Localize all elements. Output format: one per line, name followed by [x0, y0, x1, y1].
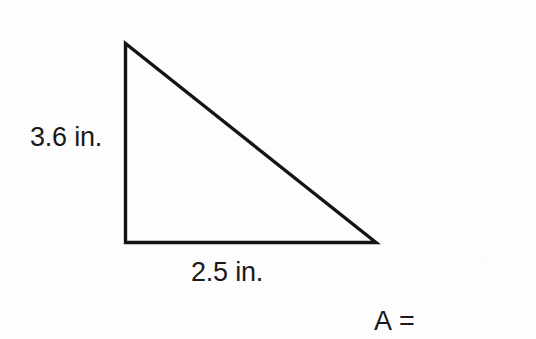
base-label: 2.5 in. [191, 259, 263, 286]
height-label: 3.6 in. [30, 124, 102, 151]
area-answer-prompt: A = [374, 308, 415, 335]
right-triangle-figure [0, 0, 536, 339]
triangle-outline [126, 44, 377, 243]
worksheet-canvas: 3.6 in. 2.5 in. A = [0, 0, 536, 339]
